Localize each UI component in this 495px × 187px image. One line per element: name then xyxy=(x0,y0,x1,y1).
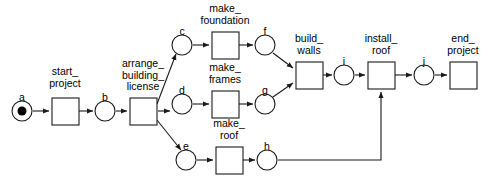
transition-label-make_roof: make_ roof xyxy=(169,118,289,141)
place-d[interactable] xyxy=(172,94,192,114)
place-label-f: f xyxy=(225,26,305,38)
place-label-a: a xyxy=(0,92,62,104)
transition-label-make_frames: make_ frames xyxy=(165,62,285,85)
transition-label-end_project: end_ project xyxy=(403,33,495,56)
place-j[interactable] xyxy=(414,65,434,85)
place-label-i: i xyxy=(304,56,384,68)
place-label-g: g xyxy=(225,85,305,97)
transition-label-make_foundation: make_ foundation xyxy=(165,3,285,26)
place-label-e: e xyxy=(146,141,226,153)
petri-net-diagram: start_ projectarrange_ building_ license… xyxy=(0,0,495,187)
place-label-j: j xyxy=(384,56,464,68)
token-a xyxy=(18,107,27,116)
place-label-d: d xyxy=(142,85,222,97)
place-label-h: h xyxy=(227,141,307,153)
place-label-b: b xyxy=(65,92,145,104)
place-b[interactable] xyxy=(95,101,115,121)
place-g[interactable] xyxy=(255,94,275,114)
place-c[interactable] xyxy=(172,35,192,55)
place-h[interactable] xyxy=(257,150,277,170)
place-label-c: c xyxy=(142,26,222,38)
place-i[interactable] xyxy=(334,65,354,85)
place-e[interactable] xyxy=(176,150,196,170)
